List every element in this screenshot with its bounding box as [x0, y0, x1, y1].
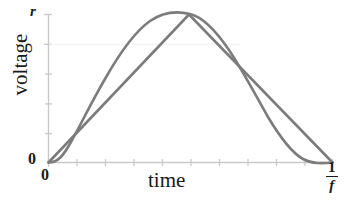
x-axis-title: time [148, 168, 185, 193]
curve-triangle-wave [49, 15, 333, 163]
curve-sine-halfwave [49, 12, 333, 163]
fraction-numerator: 1 [326, 160, 338, 175]
y-axis-title: voltage [8, 20, 33, 110]
x-axis-zero-label: 0 [41, 166, 49, 184]
y-axis-zero-label: 0 [28, 150, 36, 168]
y-axis-max-label: r [30, 3, 36, 20]
figure-container: voltage time r 0 0 1 f [0, 0, 353, 204]
fraction-denominator: f [326, 178, 338, 193]
x-axis-max-label: 1 f [326, 160, 338, 193]
